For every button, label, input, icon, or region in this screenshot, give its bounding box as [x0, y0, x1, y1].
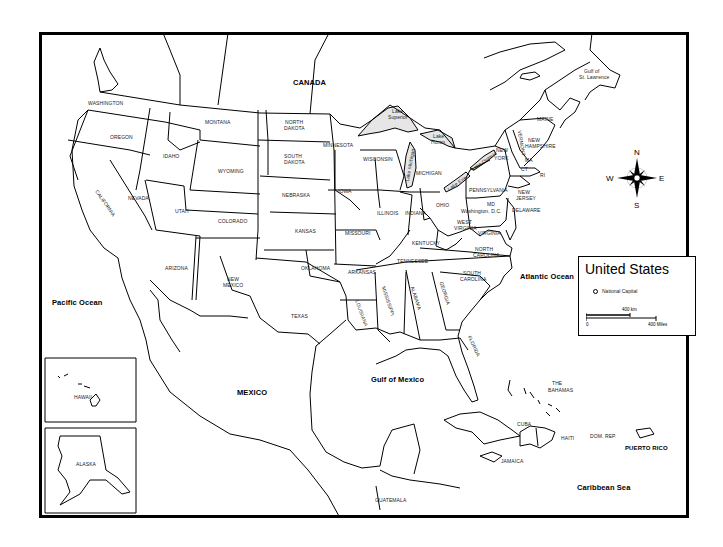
label-gulf-of-mexico: Gulf of Mexico [371, 377, 424, 383]
label-new-york-2: YORK [494, 155, 509, 161]
compass-north-label: N [634, 148, 640, 157]
label-colorado: COLORADO [218, 218, 247, 224]
label-new-jersey-2: JERSEY [516, 195, 536, 201]
compass-south-label: S [634, 201, 639, 210]
compass-east-label: E [659, 174, 664, 183]
legend-title: United States [585, 261, 669, 277]
label-kansas: KANSAS [295, 228, 316, 234]
label-lake-huron-2: Huron [431, 139, 445, 145]
label-mexico: MEXICO [237, 390, 267, 396]
label-dom-rep: DOM. REP. [590, 433, 616, 439]
label-iowa: IOWA [338, 188, 352, 194]
label-atlantic-ocean: Atlantic Ocean [520, 274, 574, 280]
label-south-carolina-2: CAROLINA [460, 276, 486, 282]
label-nevada: NEVADA [128, 195, 149, 201]
label-pacific-ocean: Pacific Ocean [52, 300, 103, 306]
label-connecticut: CT [521, 166, 528, 172]
label-utah: UTAH [175, 208, 189, 214]
label-north-carolina-2: CAROLINA [473, 252, 499, 258]
label-new-hampshire-2: HAMPSHIRE [525, 143, 556, 149]
label-jamaica: JAMAICA [501, 458, 523, 464]
label-montana: MONTANA [205, 119, 230, 125]
label-caribbean-sea: Caribbean Sea [577, 485, 630, 491]
legend-capital-label: National Capital [602, 288, 637, 294]
label-gulf-st-lawrence-2: St. Lawrence [579, 74, 609, 80]
label-arizona: ARIZONA [165, 265, 188, 271]
label-nebraska: NEBRASKA [282, 192, 310, 198]
label-maine: MAINE [537, 116, 553, 122]
label-ohio: OHIO [436, 202, 449, 208]
label-wyoming: WYOMING [218, 168, 244, 174]
label-massachusetts: MA [525, 157, 533, 163]
label-virginia: VIRGINIA [478, 230, 501, 236]
label-rhode-island: RI [540, 172, 545, 178]
label-hawaii: HAWAII [74, 394, 92, 400]
label-michigan: MICHIGAN [416, 170, 442, 176]
compass-west-label: W [606, 174, 614, 183]
label-indiana: INDIANA [405, 210, 426, 216]
label-west-virginia-2: VIRGINIA [454, 225, 477, 231]
label-texas: TEXAS [291, 313, 308, 319]
label-maryland: MD [487, 201, 495, 207]
label-new-york-1: NEW [496, 147, 508, 153]
label-north-dakota-2: DAKOTA [284, 125, 305, 131]
label-lake-superior-2: Superior [388, 114, 408, 120]
legend-capital: National Capital [593, 288, 637, 294]
label-guatemala: GUATEMALA [375, 497, 406, 503]
label-washington: WASHINGTON [88, 100, 123, 106]
label-illinois: ILLINOIS [377, 210, 398, 216]
label-arkansas: ARKANSAS [348, 269, 376, 275]
label-south-dakota-2: DAKOTA [284, 159, 305, 165]
label-tennessee: TENNESSEE [397, 258, 428, 264]
us-political-map: N S E W United States National Capital 4… [0, 0, 723, 547]
label-washington-dc: Washington, D.C. [461, 208, 502, 214]
label-minnesota: MINNESOTA [323, 142, 353, 148]
capital-marker-icon [593, 289, 598, 294]
scale-km-label: 400 km [622, 307, 637, 312]
label-missouri: MISSOURI [345, 230, 371, 236]
label-wisconsin: WISCONSIN [363, 156, 393, 162]
scale-zero-label: 0 [586, 322, 589, 327]
label-kentucky: KENTUCKY [412, 240, 440, 246]
label-pennsylvania: PENNSYLVANIA [469, 187, 508, 193]
scale-miles-label: 400 Miles [648, 322, 667, 327]
label-oklahoma: OKLAHOMA [301, 265, 330, 271]
label-canada: CANADA [293, 80, 326, 86]
map-legend: United States National Capital 400 km 0 … [578, 256, 696, 336]
label-bahamas-2: BAHAMAS [548, 387, 573, 393]
label-cuba: CUBA [517, 421, 531, 427]
label-alaska: ALASKA [76, 461, 96, 467]
label-oregon: OREGON [110, 134, 133, 140]
label-delaware: DELAWARE [512, 207, 541, 213]
label-haiti: HAITI [561, 435, 574, 441]
label-new-mexico-2: MEXICO [223, 282, 243, 288]
label-idaho: IDAHO [163, 153, 179, 159]
label-bahamas-1: THE [552, 380, 562, 386]
label-puerto-rico: PUERTO RICO [625, 445, 668, 451]
